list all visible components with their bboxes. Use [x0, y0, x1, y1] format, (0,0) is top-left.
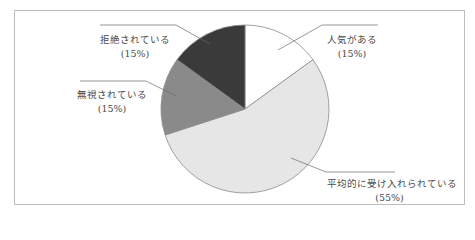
label-ignored-name: 無視されている	[72, 88, 152, 102]
pie-slices	[161, 25, 329, 193]
label-popular-name: 人気がある	[317, 33, 387, 47]
label-rejected-pct: (15%)	[95, 47, 175, 61]
label-ignored-pct: (15%)	[72, 102, 152, 116]
label-popular: 人気がある (15%)	[317, 33, 387, 61]
label-popular-pct: (15%)	[317, 47, 387, 61]
label-ignored: 無視されている (15%)	[72, 88, 152, 116]
label-average-pct: (55%)	[327, 191, 452, 205]
label-rejected: 拒絶されている (15%)	[95, 33, 175, 61]
label-average-name: 平均的に受け入れられている	[327, 177, 452, 191]
label-rejected-name: 拒絶されている	[95, 33, 175, 47]
label-average: 平均的に受け入れられている (55%)	[327, 177, 452, 205]
